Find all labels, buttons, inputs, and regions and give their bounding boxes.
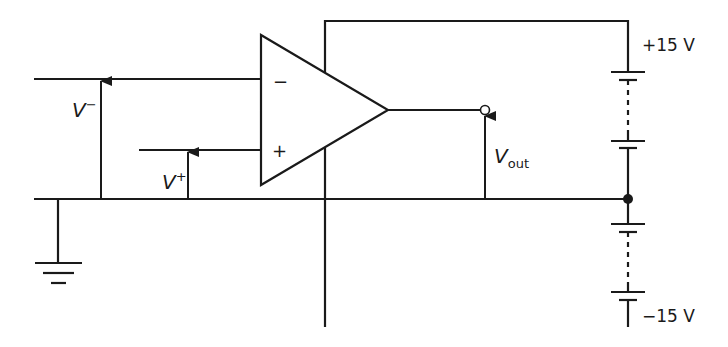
ground-icon: [35, 199, 82, 283]
positive-supply-label: +15 V: [642, 35, 695, 55]
output-terminal: [481, 106, 490, 115]
ground-junction-dot: [623, 194, 633, 204]
positive-supply-wire: [325, 21, 628, 72]
negative-supply-label: −15 V: [642, 306, 695, 326]
v-minus-label: V−: [72, 97, 97, 122]
op-amp-circuit-diagram: − + V− V+ Vout +15 V: [0, 0, 728, 347]
v-plus-label: V+: [162, 169, 187, 194]
non-inverting-input-sign: +: [272, 140, 287, 161]
v-out-label: Vout: [494, 144, 529, 171]
inverting-input-sign: −: [273, 71, 288, 92]
negative-battery-icon: [611, 224, 645, 327]
